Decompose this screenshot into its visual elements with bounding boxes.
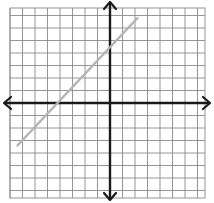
coordinate-plane bbox=[0, 0, 214, 203]
data-series bbox=[18, 18, 138, 146]
series-line bbox=[18, 18, 138, 146]
